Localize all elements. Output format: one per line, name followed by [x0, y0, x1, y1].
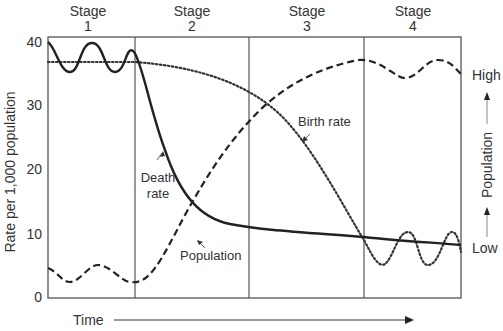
birth-rate-line: [48, 62, 461, 265]
birth-rate-annotation: Birth rate: [298, 114, 351, 142]
stage-2-label: Stage: [174, 3, 211, 19]
stage-4-number: 4: [409, 18, 417, 34]
stage-4-label: Stage: [395, 3, 432, 19]
y-axis-ticks: 40 30 20 10 0: [26, 34, 42, 305]
death-rate-label-2: rate: [147, 186, 169, 201]
x-axis-label: Time: [73, 312, 104, 328]
death-rate-line: [48, 42, 461, 245]
arrow-up-icon: [484, 92, 490, 100]
y-tick-30: 30: [26, 97, 42, 113]
stage-headers: Stage 1 Stage 2 Stage 3 Stage 4: [70, 3, 432, 34]
birth-rate-label: Birth rate: [298, 114, 351, 129]
arrow-right-icon: [405, 316, 414, 324]
stage-1-label: Stage: [70, 3, 107, 19]
population-annotation: Population: [180, 240, 241, 263]
stage-2-number: 2: [188, 18, 196, 34]
stage-3-number: 3: [303, 18, 311, 34]
y-tick-0: 0: [34, 289, 42, 305]
y-axis-label: Rate per 1,000 population: [2, 91, 18, 252]
right-axis-label: Population: [479, 132, 495, 198]
stage-3-label: Stage: [289, 3, 326, 19]
high-label: High: [472, 67, 501, 83]
arrow-up-icon: [484, 207, 490, 215]
demographic-transition-chart: Stage 1 Stage 2 Stage 3 Stage 4 40 30 20…: [0, 0, 503, 331]
y-tick-20: 20: [26, 161, 42, 177]
stage-1-number: 1: [84, 18, 92, 34]
death-rate-label-1: Death: [141, 170, 176, 185]
y-tick-40: 40: [26, 34, 42, 50]
population-line: [48, 60, 461, 282]
y-tick-10: 10: [26, 226, 42, 242]
low-label: Low: [472, 240, 499, 256]
population-label: Population: [180, 248, 241, 263]
death-rate-annotation: Death rate: [141, 151, 176, 201]
